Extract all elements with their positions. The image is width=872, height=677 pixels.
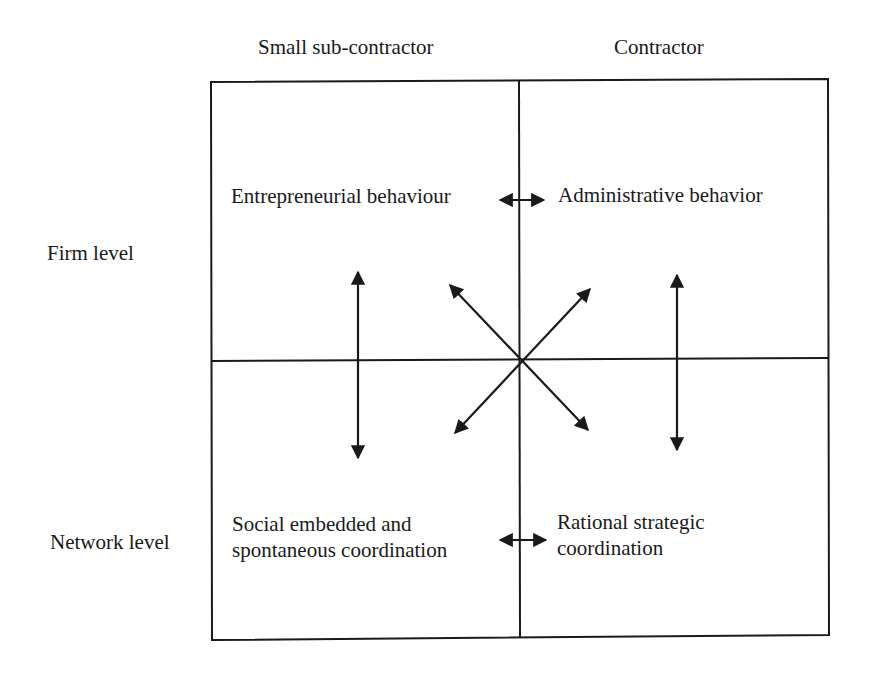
cell-rational-strategic-line1: Rational strategic (557, 509, 705, 535)
row-header-network-level: Network level (50, 529, 170, 555)
row-header-firm-level: Firm level (47, 240, 134, 266)
column-header-small-subcontractor: Small sub-contractor (258, 34, 434, 60)
arrows (358, 200, 677, 540)
cell-social-embedded-line2: spontaneous coordination (232, 537, 447, 563)
cell-rational-strategic-line2: coordination (557, 535, 663, 561)
cell-administrative-behavior: Administrative behavior (558, 182, 763, 208)
cell-social-embedded-line1: Social embedded and (232, 511, 412, 537)
column-header-contractor: Contractor (614, 34, 704, 60)
cell-entrepreneurial-behaviour: Entrepreneurial behaviour (231, 183, 451, 209)
matrix-diagram (0, 0, 872, 677)
